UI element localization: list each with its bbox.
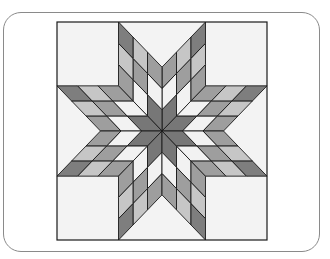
lone-star-quilt bbox=[0, 0, 330, 259]
